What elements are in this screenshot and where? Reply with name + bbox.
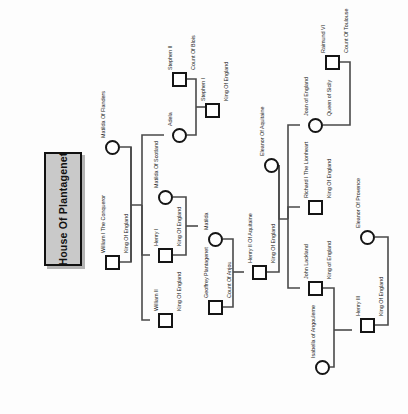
person-role: King Of England bbox=[124, 214, 129, 253]
person-role: Count Of Anjou bbox=[227, 261, 232, 298]
person-name: Henry I bbox=[154, 229, 159, 246]
female-circle-icon bbox=[105, 140, 120, 155]
female-circle-icon bbox=[158, 190, 173, 205]
female-circle-icon bbox=[172, 128, 187, 143]
male-square-icon bbox=[325, 55, 340, 70]
person-name: Henry II Of Aquitaine bbox=[248, 213, 253, 263]
person-role: King Of England bbox=[177, 207, 182, 246]
person-name: William II bbox=[154, 289, 159, 311]
person-role: Count Of Blois bbox=[191, 35, 196, 70]
male-square-icon bbox=[172, 72, 187, 87]
person-name: Henry III bbox=[356, 296, 361, 316]
male-square-icon bbox=[252, 265, 267, 280]
person-name: William I The Conqueror bbox=[101, 195, 106, 253]
person-role: King Of England bbox=[327, 159, 332, 198]
person-role: Queen of Sicily bbox=[327, 80, 332, 116]
page-title: House Of Plantagenet bbox=[57, 152, 69, 265]
person-name: Adela bbox=[168, 112, 173, 126]
female-circle-icon bbox=[360, 230, 375, 245]
person-role: King of England bbox=[327, 241, 332, 279]
person-name: Eleanor Of Provence bbox=[356, 178, 361, 228]
person-name: Raimund VI bbox=[321, 25, 326, 53]
person-name: Isabella of Angouleme bbox=[311, 305, 316, 358]
female-circle-icon bbox=[208, 232, 223, 247]
male-square-icon bbox=[158, 313, 173, 328]
person-role: King Of England bbox=[271, 224, 276, 263]
person-name: Matilda Of Scotland bbox=[154, 141, 159, 188]
person-name: Stephen I bbox=[201, 78, 206, 101]
person-name: Matilda bbox=[204, 213, 209, 230]
male-square-icon bbox=[308, 200, 323, 215]
diagram-title-plate: House Of Plantagenet bbox=[44, 152, 82, 266]
male-square-icon bbox=[205, 103, 220, 118]
person-name: Richard I The Lionheart bbox=[304, 142, 309, 198]
person-name: Eleanor Of Aquitaine bbox=[260, 107, 265, 156]
person-role: King Of England bbox=[379, 277, 384, 316]
male-square-icon bbox=[105, 255, 120, 270]
person-role: King Of England bbox=[177, 272, 182, 311]
female-circle-icon bbox=[264, 158, 279, 173]
person-name: Joan of England bbox=[304, 77, 309, 116]
person-name: John Lackland bbox=[304, 244, 309, 279]
male-square-icon bbox=[208, 300, 223, 315]
male-square-icon bbox=[308, 281, 323, 296]
person-name: Geoffrey Plantagenet bbox=[204, 247, 209, 298]
person-role: Count Of Toulouse bbox=[344, 8, 349, 53]
male-square-icon bbox=[158, 248, 173, 263]
person-name: Stephen II bbox=[168, 45, 173, 70]
female-circle-icon bbox=[315, 360, 330, 375]
family-tree-canvas: House Of Plantagenet Matilda Of Flanders… bbox=[0, 0, 408, 414]
female-circle-icon bbox=[308, 118, 323, 133]
person-role: King Of England bbox=[224, 62, 229, 101]
male-square-icon bbox=[360, 318, 375, 333]
person-name: Matilda Of Flanders bbox=[101, 91, 106, 138]
